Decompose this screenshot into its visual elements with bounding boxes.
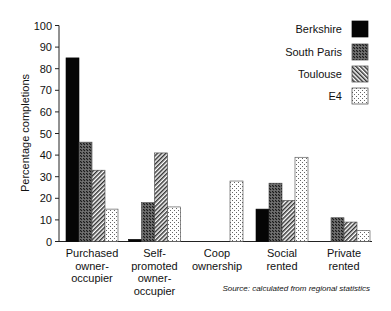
legend-item: Toulouse — [298, 66, 368, 82]
legend: BerkshireSouth ParisToulouseE4 — [285, 21, 368, 104]
bar — [129, 239, 142, 241]
y-axis-label: Percentage completions — [19, 73, 31, 192]
y-tick-label: 80 — [40, 63, 52, 75]
bar — [295, 157, 308, 241]
bar — [168, 207, 181, 242]
y-tick-label: 30 — [40, 171, 52, 183]
legend-swatch — [352, 44, 368, 60]
legend-item: South Paris — [285, 44, 368, 60]
bars — [66, 58, 370, 242]
legend-swatch — [352, 66, 368, 82]
y-tick-label: 90 — [40, 41, 52, 53]
legend-label: South Paris — [285, 46, 342, 58]
source-annotation: Source: calculated from regional statist… — [222, 284, 370, 293]
bar — [66, 58, 79, 242]
y-tick-label: 50 — [40, 128, 52, 140]
bar — [344, 222, 357, 241]
x-tick-label: Coopownership — [192, 247, 242, 272]
x-tick-label: Socialrented — [266, 247, 297, 272]
bar — [269, 183, 282, 241]
x-tick-label: Purchasedowner-occupier — [66, 247, 119, 284]
bar — [105, 209, 118, 241]
bar — [142, 203, 155, 242]
bar — [79, 142, 92, 241]
legend-label: E4 — [329, 90, 342, 102]
y-tick-label: 40 — [40, 149, 52, 161]
x-tick-label: Self-promotedowner-occupier — [131, 247, 177, 297]
y-tick-label: 70 — [40, 84, 52, 96]
y-tick-label: 10 — [40, 214, 52, 226]
legend-item: Berkshire — [296, 21, 368, 37]
legend-item: E4 — [329, 88, 368, 104]
legend-swatch — [352, 88, 368, 104]
legend-label: Toulouse — [298, 68, 342, 80]
bar — [357, 231, 370, 242]
bar — [155, 153, 168, 242]
bar — [282, 200, 295, 241]
y-tick-label: 100 — [34, 20, 52, 32]
y-tick-label: 0 — [46, 236, 52, 248]
bar — [92, 170, 105, 241]
bar — [256, 209, 269, 241]
legend-label: Berkshire — [296, 23, 342, 35]
bar — [230, 181, 243, 241]
y-tick-label: 60 — [40, 106, 52, 118]
y-axis: 0102030405060708090100 — [34, 20, 59, 248]
bar — [331, 218, 344, 242]
x-tick-label: Privaterented — [327, 247, 361, 272]
legend-swatch — [352, 21, 368, 37]
y-tick-label: 20 — [40, 192, 52, 204]
